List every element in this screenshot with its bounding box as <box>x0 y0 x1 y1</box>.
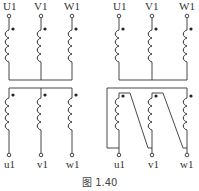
right-primary-winding-w <box>183 14 192 80</box>
coil-icon <box>37 98 41 130</box>
terminal-icon <box>70 14 74 18</box>
coil-icon <box>148 98 152 130</box>
terminal-icon <box>117 153 121 157</box>
left-primary-winding-w <box>68 14 77 80</box>
left-diagram: U1 V1 W1 <box>3 0 80 170</box>
left-primary-label-u1: U1 <box>3 0 16 12</box>
coil-icon <box>115 30 119 62</box>
terminal-icon <box>117 14 121 18</box>
figure-caption: 图 1.40 <box>82 177 117 188</box>
polarity-dot-icon <box>43 93 46 96</box>
terminal-icon <box>185 14 189 18</box>
terminal-icon <box>150 14 154 18</box>
polarity-dot-icon <box>121 27 124 30</box>
polarity-dot-icon <box>154 94 157 97</box>
polarity-dot-icon <box>11 93 14 96</box>
terminal-icon <box>7 153 11 157</box>
coil-icon <box>68 30 72 62</box>
coil-icon <box>68 98 72 130</box>
left-secondary-winding-w <box>68 88 77 157</box>
coil-icon <box>183 98 187 130</box>
polarity-dot-icon <box>154 27 157 30</box>
left-secondary-label-v1: v1 <box>37 158 48 170</box>
right-secondary-winding-u <box>115 94 124 156</box>
right-secondary-label-u1: u1 <box>114 158 125 170</box>
polarity-dot-icon <box>74 27 77 30</box>
terminal-icon <box>185 153 189 157</box>
terminal-icon <box>150 153 154 157</box>
right-primary-label-v1: V1 <box>145 0 158 12</box>
right-secondary-label-w1: w1 <box>180 158 193 170</box>
left-primary-label-w1: W1 <box>64 0 80 12</box>
left-primary-winding-u <box>5 14 14 80</box>
left-primary-label-v1: V1 <box>34 0 47 12</box>
coil-icon <box>5 98 9 130</box>
transformer-connection-figure: U1 V1 W1 <box>0 0 199 191</box>
right-diagram: U1 V1 W1 <box>107 0 195 170</box>
terminal-icon <box>39 153 43 157</box>
coil-icon <box>115 98 119 130</box>
coil-icon <box>183 30 187 62</box>
right-primary-winding-v <box>148 14 157 80</box>
coil-icon <box>37 30 41 62</box>
right-primary-label-w1: W1 <box>179 0 195 12</box>
polarity-dot-icon <box>189 94 192 97</box>
coil-icon <box>5 30 9 62</box>
right-primary-label-u1: U1 <box>113 0 126 12</box>
right-primary-winding-u <box>115 14 124 80</box>
left-secondary-winding-u <box>5 88 14 157</box>
polarity-dot-icon <box>189 27 192 30</box>
terminal-icon <box>7 14 11 18</box>
terminal-icon <box>39 14 43 18</box>
left-primary-winding-v <box>37 14 46 80</box>
polarity-dot-icon <box>74 93 77 96</box>
polarity-dot-icon <box>121 94 124 97</box>
right-secondary-label-v1: v1 <box>148 158 159 170</box>
polarity-dot-icon <box>43 27 46 30</box>
polarity-dot-icon <box>11 27 14 30</box>
right-secondary-winding-v <box>148 94 157 156</box>
left-secondary-label-w1: w1 <box>66 158 79 170</box>
right-secondary-winding-w <box>183 94 192 156</box>
terminal-icon <box>70 153 74 157</box>
left-secondary-winding-v <box>37 88 46 157</box>
left-secondary-label-u1: u1 <box>4 158 15 170</box>
coil-icon <box>148 30 152 62</box>
